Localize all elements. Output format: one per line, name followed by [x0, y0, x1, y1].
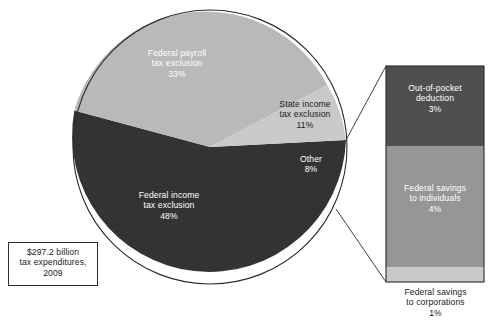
pie-label-other: Other 8% — [275, 154, 347, 175]
pie-label-line1: Federal payroll — [121, 48, 233, 58]
bar-label-value: 4% — [387, 204, 483, 214]
pie-label-line2: tax exclusion — [253, 109, 357, 119]
pie-label-state-income-tax-exclusion: State income tax exclusion 11% — [253, 99, 357, 130]
pie-label-line1: Other — [275, 154, 347, 164]
bar-label-line1: Federal savings — [383, 287, 488, 297]
total-annotation-box: $297.2 billion tax expenditures, 2009 — [8, 242, 98, 286]
bar-label-value: 3% — [387, 104, 483, 114]
total-annotation-line1: $297.2 billion — [9, 247, 97, 257]
pie-label-value: 33% — [121, 69, 233, 79]
pie-label-value: 8% — [275, 164, 347, 174]
pie-label-value: 11% — [253, 120, 357, 130]
pie-label-line2: tax exclusion — [111, 200, 227, 210]
pie-label-line1: State income — [253, 99, 357, 109]
pie-label-line1: Federal income — [111, 190, 227, 200]
pie-chart-figure: Federal payroll tax exclusion 33% State … — [0, 0, 496, 324]
bar-label-line2: to individuals — [387, 193, 483, 203]
total-annotation-line2: tax expenditures, — [9, 257, 97, 267]
bar-label-value: 1% — [383, 308, 488, 318]
bar-label-line2: deduction — [387, 93, 483, 103]
pie-label-value: 48% — [111, 211, 227, 221]
pie-label-line2: tax exclusion — [121, 58, 233, 68]
bar-label-line1: Out-of-pocket — [387, 83, 483, 93]
pie-label-federal-income-tax-exclusion: Federal income tax exclusion 48% — [111, 190, 227, 221]
bar-label-out-of-pocket-deduction: Out-of-pocket deduction 3% — [387, 83, 483, 114]
bar-label-federal-savings-to-individuals: Federal savings to individuals 4% — [387, 183, 483, 214]
total-annotation-line3: 2009 — [9, 268, 97, 278]
bar-segment-federal-savings-to-corporations[interactable] — [386, 267, 484, 282]
bar-label-federal-savings-to-corporations: Federal savings to corporations 1% — [383, 287, 488, 318]
bar-label-line2: to corporations — [383, 297, 488, 307]
bar-label-line1: Federal savings — [387, 183, 483, 193]
pie-label-federal-payroll-tax-exclusion: Federal payroll tax exclusion 33% — [121, 48, 233, 79]
